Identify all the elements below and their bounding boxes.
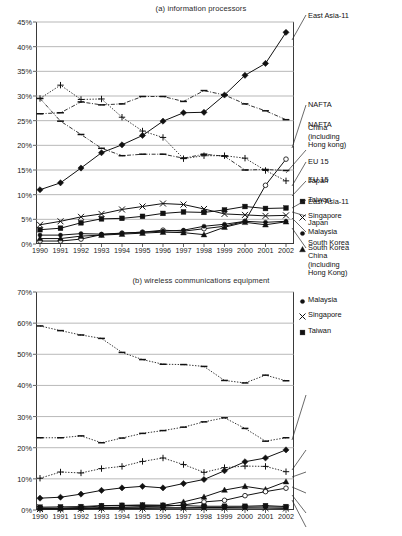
chart-a-x-axis-labels: 1990199119921993199419951996199719981999… — [36, 246, 294, 260]
y-tick-label: 0% — [21, 506, 32, 515]
y-tick-label: 15% — [17, 166, 32, 175]
x-tick-label: 1993 — [94, 246, 110, 255]
x-tick-label: 1998 — [196, 512, 212, 521]
legend-marker-circle-small-filled-icon — [298, 229, 307, 238]
y-tick-label: 50% — [17, 350, 32, 359]
series-east-asia-11 — [37, 29, 289, 193]
series-south-korea — [37, 219, 289, 241]
x-tick-label: 2002 — [278, 512, 294, 521]
legend-label[interactable]: East Asia-11 — [308, 12, 349, 21]
x-tick-label: 2002 — [278, 246, 294, 255]
chart-b-series-layer — [36, 292, 294, 510]
chart-panel-a: (a) information processors 0%5%10%15%20%… — [0, 0, 402, 270]
legend-marker-circle-small-filled-icon — [298, 297, 307, 306]
chart-a-legend: East Asia-11NAFTAChina (including Hong k… — [296, 0, 402, 270]
chart-a-y-axis-labels: 0%5%10%15%20%25%30%35%40%45% — [0, 22, 32, 244]
y-tick-label: 40% — [17, 381, 32, 390]
chart-b-x-axis-labels: 1990199119921993199419951996199719981999… — [36, 512, 294, 526]
series-eu-15 — [37, 418, 290, 443]
y-tick-label: 20% — [17, 443, 32, 452]
x-tick-label: 2001 — [258, 512, 274, 521]
x-tick-label: 1994 — [114, 512, 130, 521]
legend-marker-x-cross-icon — [298, 312, 307, 321]
x-tick-label: 1997 — [176, 246, 192, 255]
chart-a-series-layer — [36, 22, 294, 244]
x-tick-label: 1999 — [217, 246, 233, 255]
chart-b-y-axis-labels: 0%10%20%30%40%50%60%70% — [0, 292, 32, 510]
x-tick-label: 2001 — [258, 246, 274, 255]
legend-label[interactable]: EU 15 — [308, 176, 329, 185]
legend-label[interactable]: East Asia-11 — [308, 198, 349, 207]
x-tick-label: 2000 — [237, 512, 253, 521]
x-tick-label: 1992 — [73, 246, 89, 255]
y-tick-label: 10% — [17, 474, 32, 483]
x-tick-label: 1999 — [217, 512, 233, 521]
x-tick-label: 1991 — [53, 512, 69, 521]
chart-b-legend: NAFTAEU 15East Asia-11JapanSouth KoreaCh… — [296, 270, 402, 536]
legend-marker-square-filled-icon — [298, 328, 307, 337]
legend-label[interactable]: Malaysia — [308, 228, 337, 237]
legend-marker-triangle-filled-icon — [298, 245, 307, 254]
y-tick-label: 5% — [21, 215, 32, 224]
legend-label[interactable]: Malaysia — [308, 296, 337, 305]
x-tick-label: 1991 — [53, 246, 69, 255]
figure-root: (a) information processors 0%5%10%15%20%… — [0, 0, 402, 536]
legend-marker-x-cross-icon — [298, 213, 307, 222]
x-tick-label: 1993 — [94, 512, 110, 521]
chart-b-plot-area — [36, 292, 294, 510]
y-tick-label: 30% — [17, 92, 32, 101]
y-tick-label: 30% — [17, 412, 32, 421]
x-tick-label: 1997 — [176, 512, 192, 521]
legend-label[interactable]: EU 15 — [308, 158, 329, 167]
x-tick-label: 1992 — [73, 512, 89, 521]
legend-marker-square-filled-icon — [298, 197, 307, 206]
x-tick-label: 1990 — [32, 512, 48, 521]
chart-panel-b: (b) wireless communications equipment 0%… — [0, 270, 402, 536]
series-japan — [37, 455, 289, 482]
y-tick-label: 45% — [17, 18, 32, 27]
legend-label[interactable]: South Korea — [308, 239, 349, 248]
chart-a-plot-area — [36, 22, 294, 244]
x-tick-label: 1996 — [155, 246, 171, 255]
y-tick-label: 70% — [17, 288, 32, 297]
x-tick-label: 1990 — [32, 246, 48, 255]
legend-label[interactable]: Taiwan — [308, 327, 331, 336]
y-tick-label: 10% — [17, 190, 32, 199]
x-tick-label: 1995 — [135, 246, 151, 255]
legend-label[interactable]: NAFTA — [308, 101, 332, 110]
legend-label[interactable]: Singapore — [308, 311, 342, 320]
y-tick-label: 20% — [17, 141, 32, 150]
x-tick-label: 1998 — [196, 246, 212, 255]
x-tick-label: 1995 — [135, 512, 151, 521]
x-tick-label: 1996 — [155, 512, 171, 521]
y-tick-label: 35% — [17, 67, 32, 76]
y-tick-label: 60% — [17, 319, 32, 328]
y-tick-label: 40% — [17, 42, 32, 51]
y-tick-label: 25% — [17, 116, 32, 125]
series-eu-15 — [37, 82, 289, 184]
x-tick-label: 2000 — [237, 246, 253, 255]
legend-label[interactable]: China (including Hong Kong) — [308, 252, 347, 278]
legend-label[interactable]: Japan — [308, 219, 328, 228]
legend-label[interactable]: NAFTA — [308, 121, 332, 130]
y-tick-label: 0% — [21, 240, 32, 249]
x-tick-label: 1994 — [114, 246, 130, 255]
